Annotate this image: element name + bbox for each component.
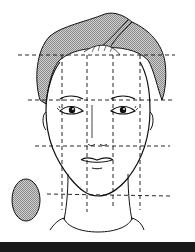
neck: [50, 174, 144, 232]
illustration-canvas: [0, 0, 195, 242]
oval-swatch: [12, 179, 40, 221]
mouth: [81, 158, 113, 169]
eyebrows: [60, 96, 135, 99]
nose: [88, 105, 107, 146]
turban: [37, 13, 166, 104]
bottom-bar: [0, 242, 195, 252]
face-outline: [43, 62, 153, 196]
eyes: [57, 106, 138, 114]
face-proportion-illustration: [0, 0, 195, 242]
